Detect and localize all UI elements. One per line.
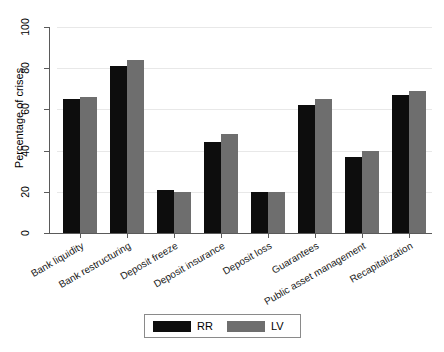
bar-lv [315, 99, 332, 233]
plot-area: 020406080100 [57, 27, 432, 233]
y-tick-label: 100 [19, 13, 31, 41]
bar-lv [409, 91, 426, 233]
chart-legend: RRLV [144, 314, 301, 338]
bar-lv [80, 97, 97, 233]
y-tick-label: 80 [19, 54, 31, 82]
bar-rr [110, 66, 127, 233]
bar-rr [392, 95, 409, 233]
bar-lv [221, 134, 238, 233]
legend-swatch [153, 321, 191, 332]
bar-rr [345, 157, 362, 233]
y-tick-label: 20 [19, 178, 31, 206]
bar-lv [268, 192, 285, 233]
bar-rr [298, 105, 315, 233]
bar-lv [362, 151, 379, 233]
x-axis-line [49, 233, 432, 234]
bar-rr [204, 142, 221, 233]
bar-lv [127, 60, 144, 233]
y-axis-line [49, 27, 50, 233]
legend-swatch [227, 321, 265, 332]
legend-label: RR [197, 320, 213, 333]
legend-label: LV [271, 320, 284, 333]
bar-rr [157, 190, 174, 233]
gridline [57, 27, 432, 28]
bar-chart-figure: Percentage of crises 020406080100 Bank l… [0, 0, 444, 352]
y-tick-label: 0 [19, 219, 31, 247]
bar-rr [251, 192, 268, 233]
y-tick-label: 60 [19, 95, 31, 123]
bar-rr [63, 99, 80, 233]
y-tick-label: 40 [19, 137, 31, 165]
bar-lv [174, 192, 191, 233]
